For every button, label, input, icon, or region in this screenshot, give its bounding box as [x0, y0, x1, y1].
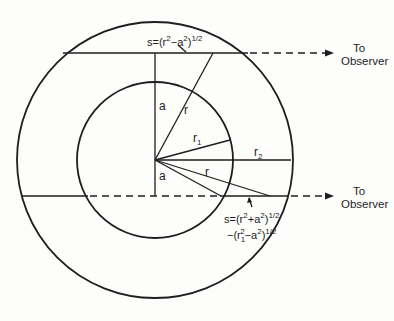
diagram-canvas: [0, 0, 394, 321]
to-observer-bottom-line2: Observer: [341, 198, 388, 211]
eq-bot1-prefix: s=(r: [224, 213, 243, 225]
equation-bottom-line2: −(r12−a2)1/2: [227, 226, 276, 246]
r-line-bottom: [155, 160, 270, 196]
eq-top-mid: −a: [171, 36, 184, 48]
spherical-shell-geometry-diagram: a a r r r1 r2 To Observer To Observer s=…: [0, 0, 394, 321]
bottom-arrow-icon: [325, 193, 334, 200]
eq-bot2-mid: −a: [245, 229, 258, 241]
label-r2: r2: [254, 146, 262, 163]
eq-top-sup3: 1/2: [191, 34, 202, 43]
eq-top-prefix: s=(r: [147, 36, 166, 48]
equation-bottom-line1: s=(r2+a2)1/2: [224, 210, 280, 225]
r1-subscript: 1: [197, 138, 201, 147]
eq-bot2-prefix: −(r: [227, 229, 241, 241]
top-arrow-icon: [325, 50, 334, 57]
equation-top: s=(r2−a2)1/2: [147, 33, 203, 48]
bottom-s-leader-arrowhead-icon: [247, 197, 252, 203]
to-observer-top-line1: To: [341, 42, 388, 55]
label-a-top: a: [159, 100, 166, 112]
r2-subscript: 2: [258, 152, 262, 161]
label-r-bottom: r: [205, 166, 209, 178]
label-a-bottom: a: [159, 170, 166, 182]
to-observer-top-line2: Observer: [341, 55, 388, 68]
label-r1: r1: [193, 132, 201, 149]
eq-bot1-mid: +a: [248, 213, 261, 225]
eq-bot1-sup3: 1/2: [268, 211, 279, 220]
to-observer-bottom: To Observer: [341, 185, 388, 211]
label-r-top: r: [184, 104, 188, 116]
to-observer-bottom-line1: To: [341, 185, 388, 198]
to-observer-top: To Observer: [341, 42, 388, 68]
eq-bot2-sup3: 1/2: [265, 227, 276, 236]
